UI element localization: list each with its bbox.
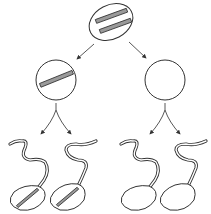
- sperm-without-chromosome: [160, 141, 206, 210]
- split-arrow-left: [41, 103, 71, 134]
- sperm-without-chromosome: [121, 141, 158, 210]
- sperm-with-chromosome: [50, 141, 96, 210]
- arrow: [129, 42, 146, 58]
- split-arrow-right: [150, 103, 180, 134]
- chromosome: [39, 70, 73, 87]
- sperm-with-chromosome: [10, 141, 47, 210]
- parent-cell: [83, 0, 140, 48]
- daughter-cell-left: [36, 60, 76, 100]
- arrow: [77, 44, 94, 59]
- chromosome-segregation-diagram: [0, 0, 211, 214]
- daughter-cell-right: [145, 60, 185, 100]
